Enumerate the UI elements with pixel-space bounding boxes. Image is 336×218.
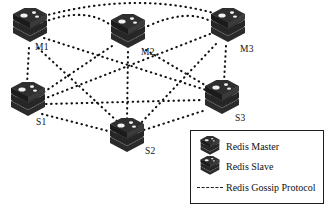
node-label-s1: S1 bbox=[36, 117, 46, 127]
node-m2[interactable] bbox=[108, 14, 148, 50]
legend-label-redis-master: Redis Master bbox=[223, 141, 279, 152]
legend-item-redis-slave: Redis Slave bbox=[197, 156, 274, 176]
node-s1[interactable] bbox=[8, 82, 48, 118]
server-stack-icon bbox=[208, 8, 248, 44]
server-stack-icon bbox=[197, 156, 223, 176]
node-label-m2: M2 bbox=[141, 47, 155, 57]
edge-S2-S3 bbox=[144, 110, 206, 130]
legend: Redis Master Redis Slave Redis Gossip Pr… bbox=[190, 130, 324, 204]
node-label-s2: S2 bbox=[145, 146, 155, 156]
server-stack-icon bbox=[107, 118, 147, 154]
node-label-s3: S3 bbox=[235, 113, 245, 123]
node-m3[interactable] bbox=[208, 8, 248, 44]
edge-S1-S2 bbox=[42, 114, 112, 132]
node-label-m3: M3 bbox=[240, 44, 254, 54]
redis-cluster-diagram: M1 M2 M3 S1 S2 S3 bbox=[0, 0, 336, 218]
edge-M2-S3 bbox=[146, 50, 210, 88]
edge-S1-S3 bbox=[46, 100, 204, 104]
legend-label-gossip-protocol: Redis Gossip Protocol bbox=[223, 182, 315, 193]
dashed-line-icon bbox=[197, 177, 223, 197]
edge-M1-M2 bbox=[44, 15, 112, 26]
server-stack-icon bbox=[108, 14, 148, 50]
edge-M1-S1 bbox=[27, 48, 29, 84]
legend-label-redis-slave: Redis Slave bbox=[223, 161, 274, 172]
server-stack-icon bbox=[8, 82, 48, 118]
server-stack-icon bbox=[197, 136, 223, 156]
legend-item-redis-master: Redis Master bbox=[197, 136, 279, 156]
edge-M2-S2 bbox=[127, 52, 128, 120]
edge-M2-M3 bbox=[148, 16, 212, 26]
edge-M2-S1 bbox=[44, 46, 112, 92]
edge-M1-S2 bbox=[38, 48, 118, 122]
node-s3[interactable] bbox=[202, 80, 242, 116]
node-s2[interactable] bbox=[107, 118, 147, 154]
legend-item-gossip-protocol: Redis Gossip Protocol bbox=[197, 177, 315, 197]
server-stack-icon bbox=[202, 80, 242, 116]
node-label-m1: M1 bbox=[35, 42, 49, 52]
edge-M3-S3 bbox=[224, 46, 226, 82]
server-stack-icon bbox=[10, 8, 50, 44]
node-m1[interactable] bbox=[10, 8, 50, 44]
